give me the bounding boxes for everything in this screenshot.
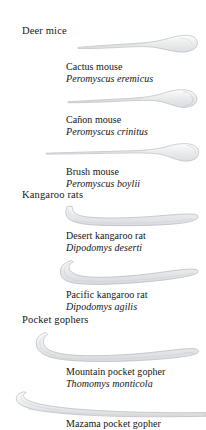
scientific-name-pacific-kangaroo-rat: Dipodomys agilis (66, 301, 148, 313)
common-name-desert-kangaroo-rat: Desert kangaroo rat (66, 230, 146, 242)
caption-desert-kangaroo-rat: Desert kangaroo rat Dipodomys deserti (66, 230, 146, 253)
specimen-illustration-pacific-kangaroo-rat (58, 259, 200, 289)
scientific-name-mountain-pocket-gopher: Thomomys monticola (66, 378, 165, 390)
scientific-name-desert-kangaroo-rat: Dipodomys deserti (66, 242, 146, 254)
scientific-name-canon-mouse: Peromyscus crinitus (66, 126, 148, 138)
caption-cactus-mouse: Cactus mouse Peromyscus eremicus (66, 61, 153, 84)
specimen-plate: Deer mice Kangaroo rats Pocket gophers C… (0, 0, 206, 430)
caption-canon-mouse: Cañon mouse Peromyscus crinitus (66, 114, 148, 137)
specimen-illustration-desert-kangaroo-rat (62, 204, 200, 230)
group-header-pocket-gophers: Pocket gophers (22, 314, 89, 325)
common-name-cactus-mouse: Cactus mouse (66, 61, 153, 73)
common-name-mazama-pocket-gopher: Mazama pocket gopher (66, 418, 161, 430)
specimen-illustration-mountain-pocket-gopher (34, 331, 200, 365)
group-header-deer-mice: Deer mice (22, 25, 67, 36)
specimen-illustration-canon-mouse (66, 88, 200, 110)
specimen-illustration-mazama-pocket-gopher (14, 390, 206, 418)
common-name-mountain-pocket-gopher: Mountain pocket gopher (66, 366, 165, 378)
caption-mazama-pocket-gopher: Mazama pocket gopher (66, 418, 161, 430)
specimen-illustration-brush-mouse (44, 142, 200, 164)
scientific-name-cactus-mouse: Peromyscus eremicus (66, 73, 153, 85)
group-header-kangaroo-rats: Kangaroo rats (22, 189, 83, 200)
common-name-pacific-kangaroo-rat: Pacific kangaroo rat (66, 289, 148, 301)
caption-pacific-kangaroo-rat: Pacific kangaroo rat Dipodomys agilis (66, 289, 148, 312)
caption-brush-mouse: Brush mouse Peromyscus boylii (66, 166, 140, 189)
scientific-name-brush-mouse: Peromyscus boylii (66, 178, 140, 190)
common-name-brush-mouse: Brush mouse (66, 166, 140, 178)
specimen-illustration-cactus-mouse (76, 33, 200, 57)
caption-mountain-pocket-gopher: Mountain pocket gopher Thomomys monticol… (66, 366, 165, 389)
common-name-canon-mouse: Cañon mouse (66, 114, 148, 126)
